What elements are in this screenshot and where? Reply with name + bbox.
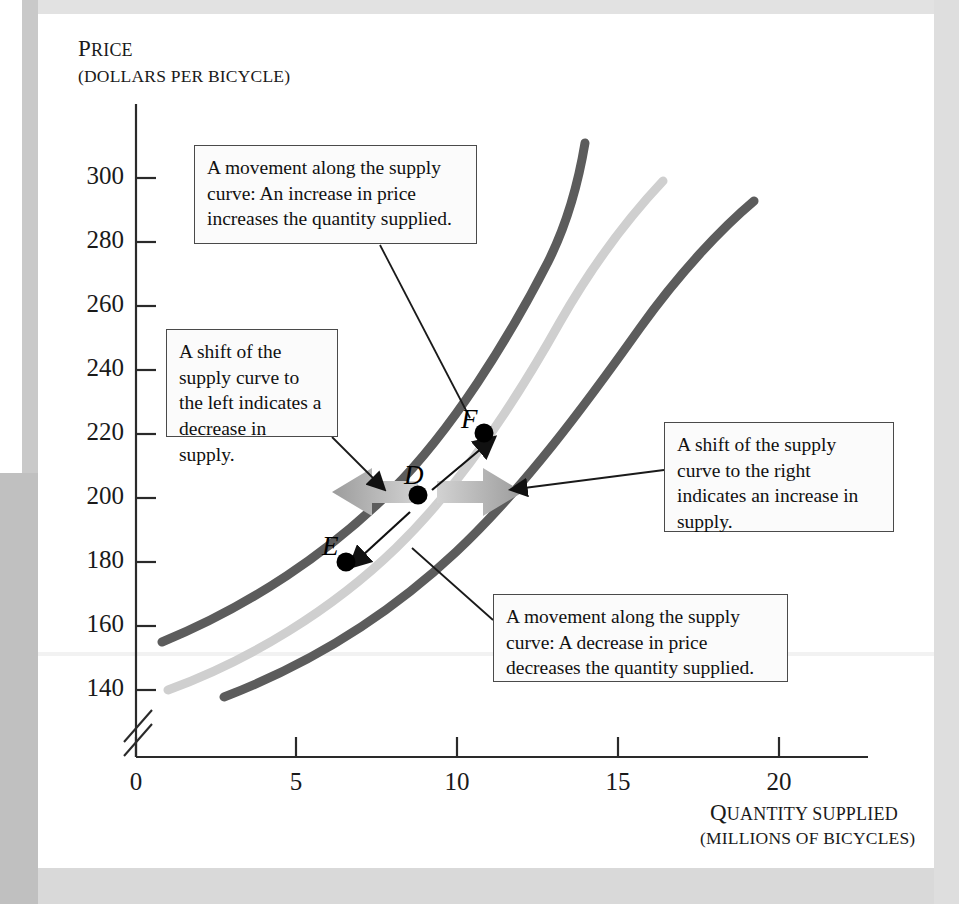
leader-movement-up (380, 245, 470, 418)
y-axis-title: PRICE (78, 36, 133, 62)
y-tick-label: 220 (62, 418, 124, 446)
point-E (337, 553, 356, 572)
figure-root: PRICE (DOLLARS PER BICYCLE) QUANTITY SUP… (0, 0, 959, 904)
y-axis-title-initial: P (78, 36, 91, 61)
x-tick-label: 15 (598, 768, 638, 796)
callout-shift-right: A shift of the supply curve to the right… (664, 422, 894, 532)
leader-shift-left (332, 437, 375, 480)
y-axis-break-icon (124, 710, 152, 756)
x-axis-title: QUANTITY SUPPLIED (710, 800, 898, 826)
y-axis-title-rest: RICE (91, 40, 133, 60)
arrow-decrease-to-E (362, 512, 410, 556)
y-tick-label: 300 (62, 162, 124, 190)
x-axis-ticks (136, 737, 779, 757)
y-tick-label: 140 (62, 674, 124, 702)
x-tick-label: 10 (437, 768, 477, 796)
callout-movement-increase: A movement along the supply curve: An in… (194, 145, 477, 244)
y-tick-label: 260 (62, 290, 124, 318)
callout-movement-decrease: A movement along the supply curve: A dec… (493, 594, 788, 682)
y-tick-label: 280 (62, 226, 124, 254)
point-label-D: D (404, 460, 424, 491)
y-axis-subtitle: (DOLLARS PER BICYCLE) (78, 66, 290, 87)
y-tick-label: 240 (62, 354, 124, 382)
x-tick-label: 20 (759, 768, 799, 796)
callout-shift-left: A shift of the supply curve to the left … (166, 329, 338, 437)
x-axis-title-rest: UANTITY SUPPLIED (727, 804, 898, 824)
y-axis-ticks (136, 178, 156, 690)
y-tick-label: 160 (62, 610, 124, 638)
x-axis-title-initial: Q (710, 800, 727, 825)
point-label-F: F (461, 404, 478, 435)
leader-shift-right (524, 470, 664, 488)
x-tick-label: 5 (276, 768, 316, 796)
point-label-E: E (322, 531, 339, 562)
y-tick-label: 180 (62, 546, 124, 574)
x-tick-label: 0 (116, 768, 156, 796)
x-axis-subtitle: (MILLIONS OF BICYCLES) (700, 828, 915, 849)
y-tick-label: 200 (62, 482, 124, 510)
